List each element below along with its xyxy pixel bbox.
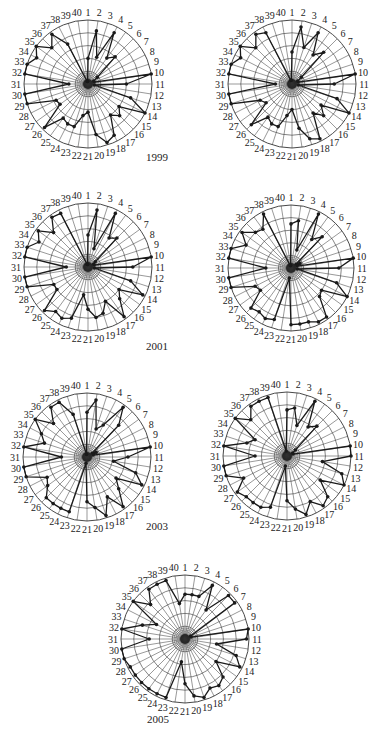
spoke-label: 40	[271, 379, 281, 390]
spoke-label: 37	[41, 203, 51, 214]
spoke-label: 38	[249, 386, 259, 397]
data-point	[245, 441, 249, 445]
data-point	[155, 692, 159, 696]
data-point	[229, 247, 233, 251]
data-point	[234, 654, 238, 658]
data-point	[307, 320, 311, 324]
spoke-label: 29	[15, 284, 25, 295]
data-point	[121, 405, 125, 409]
spoke-label: 22	[276, 150, 286, 161]
data-point	[93, 506, 97, 510]
data-point	[224, 474, 228, 478]
data-point	[227, 276, 231, 280]
spoke-label: 20	[94, 150, 104, 161]
data-point	[71, 413, 75, 417]
spoke-label: 39	[61, 10, 71, 21]
data-point	[208, 686, 212, 690]
spoke-label: 2	[96, 380, 101, 391]
data-point	[295, 424, 299, 428]
spoke-label: 34	[223, 46, 233, 57]
spoke-label: 40	[71, 380, 81, 391]
data-point	[23, 72, 27, 76]
data-point	[262, 212, 266, 216]
data-point	[128, 665, 132, 669]
data-point	[276, 125, 280, 129]
spoke-label: 29	[112, 656, 122, 667]
spoke-label: 33	[219, 56, 229, 67]
spoke-label: 20	[293, 522, 303, 533]
data-point	[214, 660, 218, 664]
data-point	[46, 484, 50, 488]
spoke-label: 3	[310, 195, 315, 206]
spoke-label: 21	[82, 524, 92, 535]
data-point	[285, 499, 289, 503]
spoke-label: 7	[143, 409, 148, 420]
spoke-label: 24	[50, 326, 60, 337]
spoke-label: 37	[138, 575, 148, 586]
spoke-label: 34	[218, 418, 228, 429]
spoke-label: 37	[245, 20, 255, 31]
spoke-label: 22	[169, 705, 179, 716]
data-point	[253, 285, 257, 289]
data-point	[140, 681, 144, 685]
spoke-label: 24	[49, 516, 59, 527]
spoke-label: 40	[72, 190, 82, 201]
data-point	[85, 410, 89, 414]
data-point	[147, 587, 151, 591]
data-point	[101, 423, 105, 427]
data-point	[257, 399, 261, 403]
spoke-label: 8	[149, 419, 154, 430]
spoke-label: 5	[127, 393, 132, 404]
spoke-label: 6	[340, 28, 345, 39]
data-point	[131, 600, 135, 604]
data-point	[23, 92, 27, 96]
radar-charts-figure: 1234567891011121314151617181920212223242…	[0, 0, 377, 741]
data-point	[23, 255, 27, 259]
data-point	[304, 513, 308, 517]
data-point	[272, 318, 276, 322]
spoke-label: 28	[19, 111, 29, 122]
spoke-label: 31	[215, 79, 225, 90]
data-point	[143, 111, 147, 115]
data-point	[318, 137, 322, 141]
spoke-label: 12	[353, 462, 363, 473]
spoke-label: 20	[93, 523, 103, 534]
data-point	[60, 317, 64, 321]
spoke-label: 40	[275, 192, 285, 203]
spoke-label: 17	[125, 137, 135, 148]
spoke-label: 39	[265, 10, 275, 21]
data-point	[227, 594, 231, 598]
spoke-label: 28	[19, 294, 29, 305]
spoke-label: 25	[138, 692, 148, 703]
spoke-label: 25	[41, 320, 51, 331]
data-point	[178, 602, 182, 606]
data-point	[251, 501, 255, 505]
spoke-label: 9	[251, 611, 256, 622]
spoke-label: 12	[153, 463, 163, 474]
data-point	[52, 231, 56, 235]
spoke-label: 3	[312, 10, 317, 21]
spoke-label: 11	[252, 634, 262, 645]
spoke-label: 12	[358, 90, 368, 101]
data-point	[299, 25, 303, 29]
data-point	[51, 502, 55, 506]
data-point	[113, 55, 117, 59]
data-point	[155, 623, 159, 627]
data-point	[37, 240, 41, 244]
spoke-label: 27	[224, 493, 234, 504]
data-point	[204, 608, 208, 612]
data-point	[259, 506, 263, 510]
data-point	[244, 243, 248, 247]
data-point	[54, 98, 58, 102]
data-point	[311, 111, 315, 115]
spoke-label: 10	[356, 251, 366, 262]
data-point	[253, 438, 257, 442]
spoke-label: 7	[348, 36, 353, 47]
spoke-label: 2	[296, 379, 301, 390]
spoke-label: 16	[231, 684, 241, 695]
spoke-label: 34	[116, 601, 126, 612]
data-point	[126, 455, 130, 459]
data-point	[55, 288, 59, 292]
data-point	[340, 472, 344, 476]
data-point	[264, 266, 268, 270]
